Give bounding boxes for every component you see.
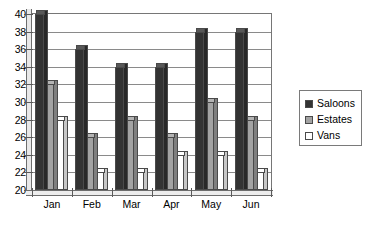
x-tick-label: Mar bbox=[112, 199, 152, 210]
legend-swatch-icon bbox=[305, 132, 313, 140]
legend-item-saloons[interactable]: Saloons bbox=[305, 96, 361, 111]
legend-item-vans[interactable]: Vans bbox=[305, 128, 361, 143]
legend: SaloonsEstatesVans bbox=[299, 90, 362, 146]
legend-swatch-icon bbox=[305, 116, 313, 124]
legend-swatch-icon bbox=[305, 100, 313, 108]
x-tick-label: Jun bbox=[231, 199, 271, 210]
legend-label: Saloons bbox=[317, 98, 355, 109]
bar-chart: 2022242628303234363840 JanFebMarAprMayJu… bbox=[0, 0, 370, 235]
x-tick-label: Jan bbox=[32, 199, 72, 210]
x-tick-label: Feb bbox=[72, 199, 112, 210]
x-tick-label: May bbox=[191, 199, 231, 210]
x-tick-label: Apr bbox=[152, 199, 192, 210]
legend-item-estates[interactable]: Estates bbox=[305, 112, 361, 127]
legend-label: Vans bbox=[317, 130, 340, 141]
legend-label: Estates bbox=[317, 114, 352, 125]
